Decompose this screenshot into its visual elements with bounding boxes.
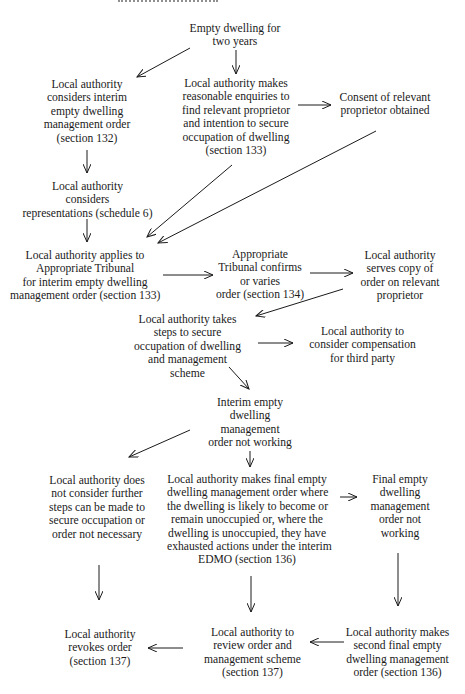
node-text-line: working bbox=[360, 527, 440, 540]
node-text-line: order (section 136) bbox=[340, 666, 455, 679]
node-text-line: management bbox=[360, 500, 440, 513]
node-no-further-steps: Local authority doesnot consider further… bbox=[42, 474, 152, 541]
node-text-line: Local authority to bbox=[305, 325, 420, 338]
node-revokes-order: Local authorityrevokes order(section 137… bbox=[50, 628, 150, 668]
node-text-line: reasonable enquiries to bbox=[176, 90, 296, 103]
node-text-line: (section 137) bbox=[200, 666, 305, 679]
node-text-line: exhausted actions under the interim bbox=[167, 540, 327, 553]
node-text-line: dwelling bbox=[360, 486, 440, 499]
node-text-line: management scheme bbox=[200, 653, 305, 666]
node-text-line: proprietor bbox=[355, 289, 445, 302]
node-text-line: Local authority bbox=[20, 180, 155, 193]
node-text-line: for interim empty dwelling bbox=[10, 276, 160, 289]
node-text-line: order on relevant bbox=[355, 276, 445, 289]
node-consent-obtained: Consent of relevantproprietor obtained bbox=[335, 91, 435, 118]
node-text-line: review order and bbox=[200, 639, 305, 652]
arrow-empty-two-years-to-consider-interim-edmo bbox=[137, 48, 190, 77]
node-text-line: scheme bbox=[130, 367, 245, 380]
node-text-line: Local authority makes bbox=[176, 77, 296, 90]
node-text-line: consider compensation bbox=[305, 338, 420, 351]
node-considers-representations: Local authorityconsidersrepresentations … bbox=[20, 180, 155, 220]
node-final-not-working: Final emptydwellingmanagementorder notwo… bbox=[360, 473, 440, 540]
node-text-line: dwelling bbox=[200, 409, 300, 422]
node-text-line: occupation of dwelling bbox=[176, 131, 296, 144]
node-consider-interim-edmo: Local authorityconsiders interimempty dw… bbox=[37, 78, 137, 145]
node-text-line: secure occupation or bbox=[42, 514, 152, 527]
node-empty-two-years: Empty dwelling fortwo years bbox=[185, 22, 285, 49]
node-text-line: two years bbox=[185, 35, 285, 48]
node-text-line: and intention to secure bbox=[176, 117, 296, 130]
node-text-line: Local authority does bbox=[42, 474, 152, 487]
node-text-line: steps to secure bbox=[130, 326, 245, 339]
node-text-line: Local authority takes bbox=[130, 313, 245, 326]
node-final-edmo: Local authority makes final emptydwellin… bbox=[167, 473, 327, 567]
node-review-order: Local authority toreview order andmanage… bbox=[200, 626, 305, 680]
node-text-line: order not bbox=[360, 513, 440, 526]
node-text-line: management order (section 133) bbox=[10, 289, 160, 302]
node-text-line: (section 133) bbox=[176, 144, 296, 157]
node-applies-tribunal: Local authority applies toAppropriate Tr… bbox=[10, 249, 160, 303]
node-text-line: for third party bbox=[305, 352, 420, 365]
node-text-line: proprietor obtained bbox=[335, 104, 435, 117]
node-text-line: or varies bbox=[210, 275, 310, 288]
node-text-line: steps can be made to bbox=[42, 501, 152, 514]
node-text-line: order (section 134) bbox=[210, 288, 310, 301]
node-text-line: Interim empty bbox=[200, 396, 300, 409]
node-text-line: not consider further bbox=[42, 487, 152, 500]
node-text-line: Empty dwelling for bbox=[185, 22, 285, 35]
node-text-line: occupation of dwelling bbox=[130, 340, 245, 353]
node-text-line: Local authority makes final empty bbox=[167, 473, 327, 486]
node-text-line: dwelling is unoccupied, they have bbox=[167, 527, 327, 540]
node-text-line: considers interim bbox=[37, 91, 137, 104]
node-text-line: Consent of relevant bbox=[335, 91, 435, 104]
arrow-reasonable-enquiries-to-applies-tribunal bbox=[147, 165, 232, 237]
node-text-line: Tribunal confirms bbox=[210, 261, 310, 274]
node-text-line: Local authority applies to bbox=[10, 249, 160, 262]
node-text-line: dwelling management order where bbox=[167, 486, 327, 499]
node-text-line: management order bbox=[37, 118, 137, 131]
node-text-line: Local authority bbox=[355, 249, 445, 262]
node-text-line: remain unoccupied or, where the bbox=[167, 513, 327, 526]
node-text-line: (section 137) bbox=[50, 655, 150, 668]
node-text-line: dwelling management bbox=[340, 653, 455, 666]
node-text-line: second final empty bbox=[340, 639, 455, 652]
node-text-line: order not necessary bbox=[42, 528, 152, 541]
node-compensation: Local authority toconsider compensationf… bbox=[305, 325, 420, 365]
node-text-line: EDMO (section 136) bbox=[167, 553, 327, 566]
arrow-interim-not-working-to-no-further-steps bbox=[129, 430, 190, 457]
node-text-line: serves copy of bbox=[355, 262, 445, 275]
node-interim-not-working: Interim emptydwellingmanagementorder not… bbox=[200, 396, 300, 450]
node-secure-occupation: Local authority takessteps to secureoccu… bbox=[130, 313, 245, 380]
node-text-line: Final empty bbox=[360, 473, 440, 486]
node-text-line: the dwelling is likely to become or bbox=[167, 500, 327, 513]
node-text-line: empty dwelling bbox=[37, 105, 137, 118]
node-text-line: Appropriate bbox=[210, 248, 310, 261]
node-reasonable-enquiries: Local authority makesreasonable enquirie… bbox=[176, 77, 296, 157]
node-text-line: management bbox=[200, 423, 300, 436]
node-tribunal-confirms: AppropriateTribunal confirmsor variesord… bbox=[210, 248, 310, 302]
node-text-line: order not working bbox=[200, 436, 300, 449]
node-text-line: find relevant proprietor bbox=[176, 104, 296, 117]
node-text-line: Local authority bbox=[50, 628, 150, 641]
node-text-line: Appropriate Tribunal bbox=[10, 262, 160, 275]
node-text-line: Local authority bbox=[37, 78, 137, 91]
node-text-line: revokes order bbox=[50, 641, 150, 654]
node-text-line: (section 132) bbox=[37, 132, 137, 145]
node-second-final-edmo: Local authority makessecond final emptyd… bbox=[340, 626, 455, 680]
node-serves-copy: Local authorityserves copy oforder on re… bbox=[355, 249, 445, 303]
node-text-line: and management bbox=[130, 353, 245, 366]
node-text-line: Local authority to bbox=[200, 626, 305, 639]
node-text-line: considers bbox=[20, 193, 155, 206]
node-text-line: Local authority makes bbox=[340, 626, 455, 639]
node-text-line: representations (schedule 6) bbox=[20, 207, 155, 220]
